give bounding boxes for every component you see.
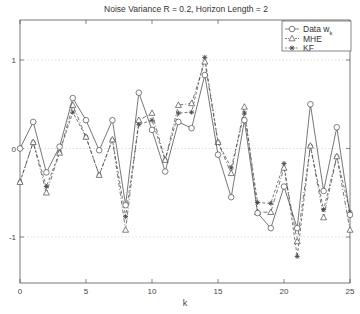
triangle-marker xyxy=(228,170,234,176)
circle-marker xyxy=(334,124,340,130)
chart: Noise Variance R = 0.2, Horizon Length =… xyxy=(0,0,360,314)
circle-marker xyxy=(228,194,234,200)
circle-marker xyxy=(44,170,50,176)
triangle-marker xyxy=(43,190,49,196)
circle-marker xyxy=(176,119,182,125)
triangle-marker xyxy=(347,227,353,233)
circle-marker xyxy=(17,146,23,152)
series-mhe xyxy=(17,59,353,244)
x-tick-label: 20 xyxy=(280,287,289,296)
circle-marker xyxy=(289,26,295,32)
triangle-marker xyxy=(241,104,247,110)
circle-marker xyxy=(83,117,89,123)
circle-marker xyxy=(255,210,261,216)
triangle-marker xyxy=(162,157,168,163)
circle-marker xyxy=(321,188,327,194)
circle-marker xyxy=(308,101,314,107)
circle-marker xyxy=(202,72,208,78)
series-line xyxy=(20,57,350,256)
circle-marker xyxy=(242,117,248,123)
circle-marker xyxy=(347,212,353,218)
circle-marker xyxy=(268,225,274,231)
circle-marker xyxy=(189,125,195,131)
legend-label: MHE xyxy=(303,34,322,44)
triangle-marker xyxy=(17,179,23,185)
asterisk-marker xyxy=(242,111,247,116)
series-layer xyxy=(17,55,353,259)
circle-marker xyxy=(281,184,287,190)
circle-marker xyxy=(70,95,76,101)
legend-label: KF xyxy=(303,43,314,53)
triangle-marker xyxy=(149,110,155,116)
circle-marker xyxy=(57,144,63,150)
asterisk-marker xyxy=(290,46,295,51)
x-axis-label: k xyxy=(183,298,188,308)
circle-marker xyxy=(162,169,168,175)
asterisk-marker xyxy=(295,254,300,259)
circle-marker xyxy=(215,152,221,158)
y-tick-label: 1 xyxy=(12,56,17,65)
y-tick-label: -1 xyxy=(9,233,17,242)
series-line xyxy=(20,62,350,242)
triangle-marker xyxy=(268,209,274,215)
triangle-marker xyxy=(123,227,129,233)
triangle-marker xyxy=(281,165,287,171)
circle-marker xyxy=(96,147,102,153)
triangle-marker xyxy=(202,59,208,65)
chart-title: Noise Variance R = 0.2, Horizon Length =… xyxy=(104,4,268,14)
series-line xyxy=(20,75,350,228)
legend: Data wkMHEKF xyxy=(282,21,351,53)
y-tick-label: 0 xyxy=(12,145,17,154)
series-data-w-k xyxy=(17,72,353,231)
x-tick-label: 25 xyxy=(346,287,355,296)
asterisk-marker xyxy=(268,201,273,206)
triangle-marker xyxy=(136,117,142,123)
triangle-marker xyxy=(321,214,327,220)
x-tick-label: 0 xyxy=(18,287,23,296)
asterisk-marker xyxy=(189,110,194,115)
grid-lines xyxy=(20,60,350,237)
x-tick-label: 15 xyxy=(214,287,223,296)
circle-marker xyxy=(110,117,116,123)
circle-marker xyxy=(123,202,129,208)
circle-marker xyxy=(136,90,142,96)
series-kf xyxy=(18,55,353,259)
circle-marker xyxy=(149,127,155,133)
x-tick-label: 5 xyxy=(84,287,89,296)
x-tick-label: 10 xyxy=(148,287,157,296)
circle-marker xyxy=(294,225,300,231)
circle-marker xyxy=(30,119,36,125)
